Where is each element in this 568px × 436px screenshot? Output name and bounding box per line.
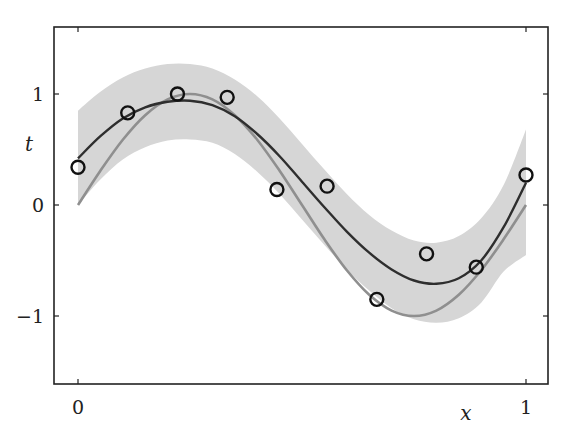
y-tick-label: −1: [16, 305, 44, 327]
band-area: [78, 63, 526, 322]
x-tick-label: 1: [520, 396, 532, 418]
y-tick-label: 1: [32, 83, 44, 105]
x-tick-label: 0: [72, 396, 84, 418]
confidence-band: [78, 63, 526, 322]
x-axis-label: x: [460, 401, 471, 425]
chart: 01−101 x t: [0, 0, 568, 436]
y-tick-label: 0: [32, 194, 44, 216]
y-axis-label: t: [25, 132, 34, 156]
